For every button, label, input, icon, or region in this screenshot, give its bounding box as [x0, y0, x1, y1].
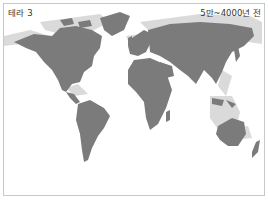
time-period-label: 5만~4000년 전	[200, 6, 261, 18]
world-map	[0, 0, 268, 200]
greenland	[100, 12, 130, 36]
south-america	[76, 100, 110, 162]
map-title: 테라 3	[8, 6, 33, 18]
